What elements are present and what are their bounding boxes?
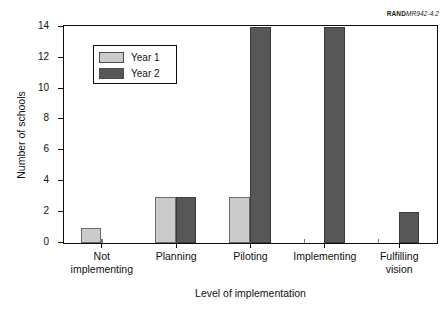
bar-implementing-year-1 <box>304 239 305 243</box>
y-axis-tick-label: 14 <box>38 20 49 31</box>
y-axis-tick: 10 <box>58 88 64 89</box>
y-axis-tick: 4 <box>58 180 64 181</box>
y-axis-tick-label: 8 <box>43 112 49 123</box>
x-axis-tick <box>101 243 102 248</box>
legend-swatch-year-2 <box>99 68 124 79</box>
y-axis-tick: 14 <box>58 26 64 27</box>
y-axis-tick: 0 <box>58 242 64 243</box>
x-axis-tick-label-line: Not <box>94 250 110 262</box>
y-axis-tick-label: 6 <box>43 143 49 154</box>
y-axis-tick: 12 <box>58 57 64 58</box>
x-axis-tick <box>250 243 251 248</box>
y-axis-tick: 6 <box>58 149 64 150</box>
bar-implementing-year-2 <box>324 27 345 243</box>
legend-label-year-1: Year 1 <box>131 52 160 63</box>
x-axis-tick-label-line: vision <box>386 263 413 275</box>
y-axis-tick-label: 0 <box>43 236 49 247</box>
x-axis-tick-label-line: Planning <box>156 250 197 262</box>
x-axis-tick-label-line: Piloting <box>233 250 267 262</box>
bar-fulfilling-vision-year-1 <box>378 239 379 243</box>
rand-source-id-bold: RAND <box>387 10 406 17</box>
x-axis-tick-label: Fulfillingvision <box>354 250 444 275</box>
y-axis-tick: 2 <box>58 211 64 212</box>
bar-fulfilling-vision-year-2 <box>399 212 420 243</box>
plot-frame: Number of schools Year 1 Year 2 02468101… <box>63 25 438 244</box>
y-axis-tick-label: 10 <box>38 82 49 93</box>
x-axis-tick <box>324 243 325 248</box>
y-axis-tick-label: 4 <box>43 174 49 185</box>
x-axis-title: Level of implementation <box>63 287 438 299</box>
bar-piloting-year-1 <box>229 197 250 243</box>
legend-entry-year-1: Year 1 <box>99 50 171 64</box>
legend-swatch-year-1 <box>99 52 124 63</box>
bar-piloting-year-2 <box>250 27 271 243</box>
rand-source-id: RANDMR942-4.2 <box>387 10 439 17</box>
figure-container: RANDMR942-4.2 Number of schools Year 1 Y… <box>0 0 447 309</box>
x-axis-tick-label-line: Fulfilling <box>380 250 419 262</box>
x-axis-tick <box>399 243 400 248</box>
y-axis-title: Number of schools <box>15 35 27 235</box>
y-axis-tick-label: 2 <box>43 205 49 216</box>
legend-label-year-2: Year 2 <box>131 68 160 79</box>
bar-planning-year-2 <box>176 197 197 243</box>
x-axis-tick-label-line: implementing <box>71 263 133 275</box>
x-axis-tick <box>176 243 177 248</box>
y-axis-tick: 8 <box>58 118 64 119</box>
bar-not-implementing-year-1 <box>81 228 102 243</box>
legend-entry-year-2: Year 2 <box>99 66 171 80</box>
x-axis-tick-labels: NotimplementingPlanningPilotingImplement… <box>63 250 438 284</box>
x-axis-tick-label-line: Implementing <box>293 250 356 262</box>
chart-legend: Year 1 Year 2 <box>93 45 177 84</box>
y-axis-tick-label: 12 <box>38 51 49 62</box>
rand-source-id-italic: MR942-4.2 <box>406 10 439 17</box>
bar-planning-year-1 <box>155 197 176 243</box>
